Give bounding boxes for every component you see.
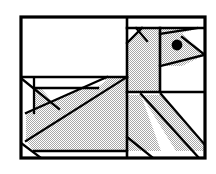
geometric-bird-figure (0, 0, 216, 174)
artboard: Angular geometric bird drawing with gray… (0, 0, 216, 174)
bird-eye (172, 40, 183, 51)
